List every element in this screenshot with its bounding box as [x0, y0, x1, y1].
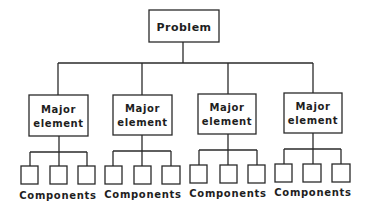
hierarchy-diagram: Problem Major element Components Major e…	[0, 0, 368, 211]
component-box	[78, 166, 95, 184]
root-label: Problem	[156, 21, 211, 34]
component-box	[220, 165, 237, 183]
major-label-line2: element	[288, 115, 338, 126]
components-label: Components	[19, 190, 96, 201]
major-label-line1: Major	[125, 103, 160, 114]
component-box	[134, 166, 151, 184]
diagram-svg: Problem Major element Components Major e…	[0, 0, 368, 211]
component-box	[190, 165, 207, 183]
component-box	[50, 166, 67, 184]
components-label: Components	[104, 189, 181, 200]
major-element-box-4	[284, 93, 342, 133]
component-box	[248, 165, 265, 183]
component-box	[162, 166, 180, 184]
component-box	[21, 166, 38, 184]
component-box	[105, 166, 122, 184]
major-label-line2: element	[202, 116, 252, 127]
component-box	[275, 164, 292, 182]
component-box	[303, 164, 321, 182]
components-label: Components	[189, 188, 266, 199]
major-label-line2: element	[117, 117, 167, 128]
components-label: Components	[274, 187, 351, 198]
major-element-box-1	[29, 95, 88, 136]
major-label-line1: Major	[210, 102, 245, 113]
major-label-line1: Major	[296, 101, 331, 112]
major-label-line2: element	[33, 118, 83, 129]
component-box	[332, 164, 350, 182]
major-label-line1: Major	[41, 104, 76, 115]
major-element-box-2	[113, 95, 172, 135]
major-element-box-3	[198, 94, 256, 134]
